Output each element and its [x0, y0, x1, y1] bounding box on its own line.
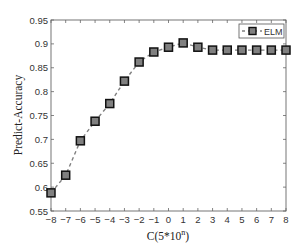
data-point-square-icon: [47, 189, 55, 197]
data-point-square-icon: [91, 117, 99, 125]
y-tick-label: 0.95: [30, 15, 49, 26]
data-point-square-icon: [238, 46, 246, 54]
data-point-square-icon: [165, 43, 173, 51]
x-tick-label: 1: [181, 214, 186, 225]
x-tick-label: 3: [210, 214, 215, 225]
x-tick-label: −8: [46, 214, 57, 225]
y-tick-label: 0.85: [30, 62, 49, 73]
series-layer: [47, 39, 290, 197]
data-point-square-icon: [223, 46, 231, 54]
x-axis-label: C(5*10n): [147, 228, 190, 243]
y-tick-label: 0.6: [35, 182, 48, 193]
y-tick-label: 0.7: [35, 134, 48, 145]
series-line-elm: [51, 43, 286, 193]
data-point-square-icon: [106, 100, 114, 108]
x-tick-label: −4: [104, 214, 115, 225]
x-tick-label: −3: [119, 214, 130, 225]
x-tick-label: −7: [60, 214, 71, 225]
x-tick-label: 6: [254, 214, 259, 225]
data-point-square-icon: [194, 43, 202, 51]
legend-marker-square-icon: [249, 28, 256, 35]
x-tick-label: 2: [195, 214, 200, 225]
y-axis-ticks: 0.550.60.650.70.750.80.850.90.95: [30, 15, 287, 217]
x-axis-label-close: ): [185, 230, 189, 243]
y-tick-label: 0.8: [35, 86, 48, 97]
x-tick-label: 5: [239, 214, 244, 225]
data-point-square-icon: [209, 46, 217, 54]
legend-label: ELM: [264, 27, 283, 37]
x-tick-label: 0: [166, 214, 171, 225]
x-tick-label: −2: [134, 214, 145, 225]
x-axis-label-base: C(5*10: [147, 230, 182, 243]
x-tick-label: 4: [225, 214, 230, 225]
data-point-square-icon: [267, 46, 275, 54]
data-point-square-icon: [135, 58, 143, 66]
x-tick-label: −6: [75, 214, 86, 225]
x-tick-label: −5: [90, 214, 101, 225]
data-point-square-icon: [253, 46, 261, 54]
chart: 0.550.60.650.70.750.80.850.90.95 −8−7−6−…: [0, 0, 305, 251]
y-tick-label: 0.9: [35, 38, 48, 49]
legend: ELM: [239, 24, 284, 38]
data-point-square-icon: [150, 48, 158, 56]
x-tick-label: 7: [269, 214, 274, 225]
data-point-square-icon: [282, 46, 290, 54]
y-tick-label: 0.75: [30, 110, 49, 121]
x-tick-label: 8: [283, 214, 288, 225]
data-point-square-icon: [179, 39, 187, 47]
x-tick-label: −1: [148, 214, 159, 225]
data-point-square-icon: [76, 137, 84, 145]
y-tick-label: 0.65: [30, 158, 49, 169]
y-axis-label: Predict-Accuracy: [12, 75, 25, 156]
data-point-square-icon: [120, 77, 128, 85]
data-point-square-icon: [62, 171, 70, 179]
